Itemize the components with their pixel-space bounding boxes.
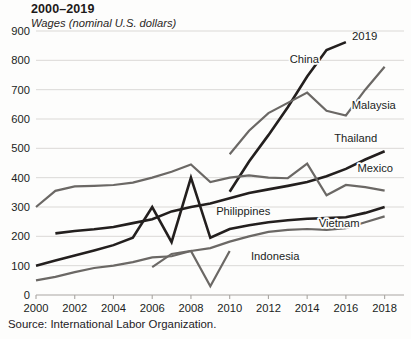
series-label-indonesia: Indonesia (251, 250, 300, 262)
y-axis-tick-label: 200 (11, 230, 30, 242)
series-label-philippines: Philippines (216, 205, 271, 217)
x-axis-tick-label: 2000 (24, 302, 49, 314)
y-axis-tick-label: 700 (11, 84, 30, 96)
series-label-malaysia: Malaysia (352, 99, 397, 111)
y-axis-tick-label: 800 (11, 54, 30, 66)
y-axis-tick-label: 500 (11, 142, 30, 154)
series-line-mexico (36, 164, 385, 207)
series-label-thailand: Thailand (334, 132, 377, 144)
chart-plot-area: 0100200300400500600700800900 20002002200… (0, 0, 411, 339)
y-axis-tick-label: 400 (11, 172, 30, 184)
y-axis-tick-label: 0 (24, 289, 30, 301)
y-axis-ticks: 0100200300400500600700800900 (11, 25, 30, 301)
y-axis-tick-label: 300 (11, 201, 30, 213)
series-label-vietnam: Vietnam (319, 217, 360, 229)
end-year-annotation: 2019 (352, 30, 377, 42)
x-axis-tick-label: 2018 (372, 302, 397, 314)
series-lines (36, 42, 385, 286)
x-axis-tick-label: 2008 (179, 302, 204, 314)
x-axis-tick-label: 2016 (333, 302, 358, 314)
x-axis-tick-label: 2004 (101, 302, 126, 314)
y-axis-tick-label: 900 (11, 25, 30, 37)
series-label-china: China (290, 53, 320, 65)
wages-line-chart: 2000–2019 Wages (nominal U.S. dollars) 0… (0, 0, 411, 339)
series-line-china (230, 42, 346, 192)
x-axis-tick-label: 2014 (295, 302, 320, 314)
series-label-mexico: Mexico (358, 162, 393, 174)
y-axis-tick-label: 100 (11, 260, 30, 272)
x-axis-tick-label: 2002 (62, 302, 87, 314)
x-axis-tick-label: 2010 (217, 302, 242, 314)
y-axis-tick-label: 600 (11, 113, 30, 125)
x-axis-tick-label: 2006 (140, 302, 165, 314)
chart-source: Source: International Labor Organization… (8, 318, 216, 330)
x-axis-tick-label: 2012 (256, 302, 281, 314)
x-axis-ticks: 2000200220042006200820102012201420162018 (24, 295, 398, 314)
